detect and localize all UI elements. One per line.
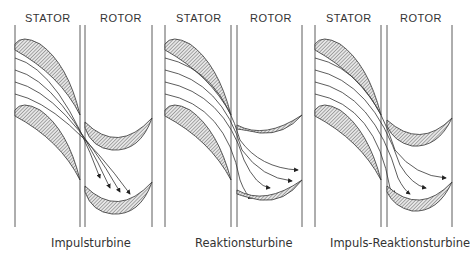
stator-blade	[315, 39, 381, 115]
rotor-label: ROTOR	[400, 12, 442, 24]
rotor-label: ROTOR	[250, 12, 292, 24]
panel-impulsturbine	[15, 25, 152, 227]
rotor-label: ROTOR	[100, 12, 142, 24]
caption-impulsturbine: Impulsturbine	[51, 236, 131, 250]
stator-blade	[165, 39, 231, 115]
rotor-blade	[387, 118, 452, 146]
rotor-blade	[387, 182, 452, 211]
caption-impuls-reaktionsturbine: Impuls-Reaktionsturbine	[330, 236, 470, 250]
rotor-blade	[85, 182, 152, 214]
caption-reaktionsturbine: Reaktionsturbine	[195, 236, 293, 250]
stator-blade	[15, 39, 80, 115]
panel-reaktionsturbine	[165, 25, 302, 227]
stator-label: STATOR	[25, 12, 71, 24]
rotor-blade	[237, 115, 302, 133]
rotor-blade	[85, 118, 152, 150]
stator-blade	[315, 105, 381, 180]
panel-impuls-reaktionsturbine	[315, 25, 452, 227]
rotor-blade	[237, 180, 302, 200]
stator-label: STATOR	[176, 12, 222, 24]
stator-blade	[165, 105, 231, 180]
stator-label: STATOR	[326, 12, 372, 24]
